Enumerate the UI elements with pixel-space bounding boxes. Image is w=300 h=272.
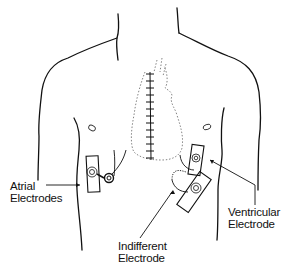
atrial-label-line1: Atrial <box>10 180 62 192</box>
shoulder-left <box>38 38 117 180</box>
neck-right <box>177 8 179 33</box>
indifferent-leader-line <box>140 192 172 238</box>
indifferent-electrode-label: Indifferent Electrode <box>118 240 167 264</box>
torso-right-side <box>217 108 224 240</box>
heart-outline <box>131 66 182 160</box>
atrial-label-line2: Electrodes <box>10 192 62 204</box>
neck-left <box>117 14 119 60</box>
great-vessels <box>154 58 166 76</box>
indifferent-label-line1: Indifferent <box>118 240 167 252</box>
indifferent-label-line2: Electrode <box>118 252 167 264</box>
arrow-head <box>76 183 80 187</box>
ventricular-electrode <box>180 144 204 175</box>
atrial-electrode <box>86 150 126 192</box>
atrial-electrodes-label: Atrial Electrodes <box>10 180 62 204</box>
shoulder-right <box>179 33 261 190</box>
nipple-left <box>88 124 97 132</box>
ventricular-label-line2: Electrode <box>228 218 280 230</box>
sternotomy-incision <box>146 72 154 160</box>
indifferent-electrode <box>172 170 211 212</box>
ventricular-label-line1: Ventricular <box>228 206 280 218</box>
chest-diagram <box>0 0 300 272</box>
ventricular-leader-line <box>210 160 255 185</box>
nipple-right <box>202 123 211 130</box>
ventricular-electrode-label: Ventricular Electrode <box>228 206 280 230</box>
